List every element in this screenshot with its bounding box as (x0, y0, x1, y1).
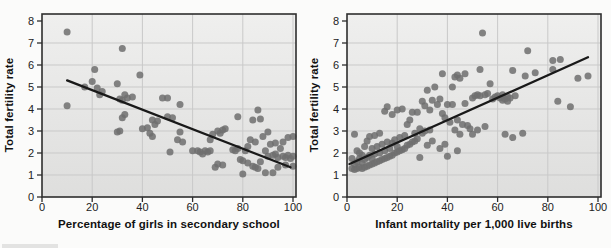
y-tick-label: 1 (333, 169, 339, 181)
data-point (484, 90, 491, 97)
data-point (462, 100, 469, 107)
data-point (424, 87, 431, 94)
data-point (177, 129, 184, 136)
data-point (252, 139, 259, 146)
data-point (439, 70, 446, 77)
y-axis-title: Total fertility rate (3, 58, 15, 152)
x-tick-label: 100 (284, 201, 302, 213)
data-point (114, 129, 121, 136)
data-point (444, 153, 451, 160)
data-point (567, 103, 574, 110)
y-tick-label: 3 (333, 125, 339, 137)
data-point (136, 71, 143, 78)
data-point (114, 80, 121, 87)
data-point (454, 147, 461, 154)
data-point (477, 66, 484, 73)
y-tick-label: 5 (333, 81, 339, 93)
data-point (524, 47, 531, 54)
data-point (512, 92, 519, 99)
data-point (272, 140, 279, 147)
data-point (264, 129, 271, 136)
data-point (254, 165, 261, 172)
data-point (149, 133, 156, 140)
x-tick-label: 80 (237, 201, 249, 213)
data-point (64, 102, 71, 109)
data-point (456, 131, 463, 138)
data-point (532, 69, 539, 76)
x-axis-title: Percentage of girls in secondary school (58, 218, 280, 230)
data-point (219, 162, 226, 169)
data-point (139, 125, 146, 132)
caption-fragment (2, 244, 58, 248)
y-tick-label: 4 (28, 103, 34, 115)
scatter-plot-infant-mortality: 012345678020406080100 Total fertility ra… (305, 0, 610, 248)
y-tick-label: 8 (333, 15, 339, 27)
data-point (199, 151, 206, 158)
data-point (164, 95, 171, 102)
x-tick-label: 40 (136, 201, 148, 213)
data-point (222, 125, 229, 132)
x-tick-label: 20 (86, 201, 98, 213)
data-point (557, 56, 564, 63)
data-point (64, 29, 71, 36)
x-tick-label: 0 (39, 201, 45, 213)
data-point (436, 96, 443, 103)
data-point (585, 73, 592, 80)
x-axis-title: Infant mortality per 1,000 live births (375, 218, 572, 230)
data-point (254, 107, 261, 114)
data-point (414, 109, 421, 116)
y-tick-label: 6 (28, 59, 34, 71)
fertility-scatter-figure: 012345678020406080100 Total fertility ra… (0, 0, 611, 248)
data-point (429, 137, 436, 144)
data-point (262, 169, 269, 176)
data-point (119, 45, 126, 52)
data-point (89, 78, 96, 85)
data-point (257, 158, 264, 165)
data-point (522, 73, 529, 80)
x-tick-label: 20 (391, 201, 403, 213)
data-point (554, 98, 561, 105)
x-tick-label: 60 (186, 201, 198, 213)
y-tick-label: 7 (333, 37, 339, 49)
data-point (416, 154, 423, 161)
data-point (426, 107, 433, 114)
data-point (482, 123, 489, 130)
scatter-plot-girls-secondary-school: 012345678020406080100 Total fertility ra… (0, 0, 305, 248)
x-tick-label: 40 (441, 201, 453, 213)
y-tick-label: 0 (28, 191, 34, 203)
data-point (249, 117, 256, 124)
data-point (167, 148, 174, 155)
y-tick-label: 7 (28, 37, 34, 49)
data-point (449, 84, 456, 91)
y-tick-label: 3 (28, 125, 34, 137)
data-point (384, 103, 391, 110)
x-tick-label: 100 (589, 201, 607, 213)
y-tick-label: 5 (28, 81, 34, 93)
data-point (519, 130, 526, 137)
data-point (502, 131, 509, 138)
y-tick-label: 6 (333, 59, 339, 71)
data-point (177, 101, 184, 108)
data-point (487, 80, 494, 87)
data-point (91, 66, 98, 73)
data-point (376, 130, 383, 137)
data-point (509, 67, 516, 74)
data-point (509, 134, 516, 141)
y-tick-label: 1 (28, 169, 34, 181)
data-point (574, 75, 581, 82)
data-point (431, 84, 438, 91)
chart-girls-secondary-school: 012345678020406080100 Total fertility ra… (0, 0, 305, 248)
y-tick-label: 2 (333, 147, 339, 159)
data-point (257, 115, 264, 122)
data-point (479, 30, 486, 37)
data-point (151, 121, 158, 128)
data-point (414, 135, 421, 142)
data-point (549, 57, 556, 64)
data-point (351, 131, 358, 138)
data-point (207, 147, 214, 154)
data-point (441, 141, 448, 148)
chart-infant-mortality: 012345678020406080100 Total fertility ra… (305, 0, 610, 248)
data-point (277, 145, 284, 152)
data-point (234, 113, 241, 120)
y-tick-label: 0 (333, 191, 339, 203)
